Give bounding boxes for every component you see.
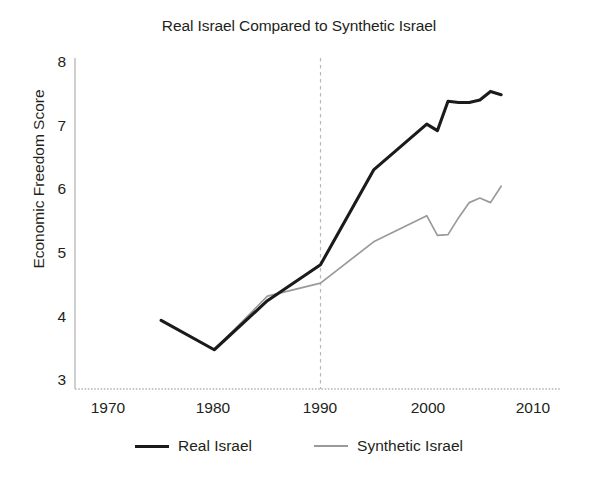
chart-figure: Real Israel Compared to Synthetic Israel… <box>0 0 598 479</box>
legend-label-synthetic-israel: Synthetic Israel <box>357 437 463 455</box>
plot-area <box>0 0 598 479</box>
legend-swatch-synthetic-israel <box>314 445 348 447</box>
series-line-real-israel <box>161 91 501 349</box>
legend-entry-synthetic-israel: Synthetic Israel <box>314 437 463 455</box>
legend-entry-real-israel: Real Israel <box>135 437 252 455</box>
series-line-synthetic-israel <box>161 186 501 350</box>
legend-swatch-real-israel <box>135 445 169 448</box>
legend-label-real-israel: Real Israel <box>178 437 252 455</box>
chart-legend: Real Israel Synthetic Israel <box>0 437 598 455</box>
